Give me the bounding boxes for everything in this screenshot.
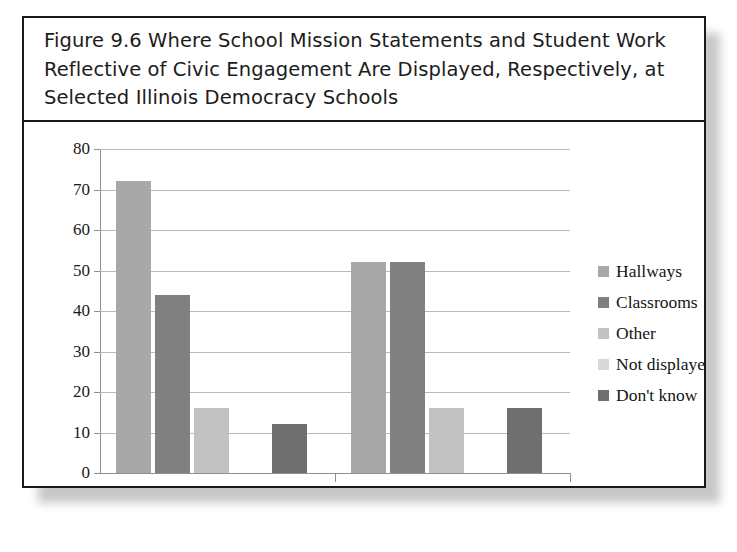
legend-swatch-icon (598, 266, 609, 277)
legend-label: Classrooms (616, 292, 698, 313)
y-axis-tick-label: 60 (44, 220, 90, 240)
legend-item[interactable]: Not displayed (598, 349, 704, 380)
y-axis-tick-label: 80 (44, 139, 90, 159)
legend-swatch-icon (598, 328, 609, 339)
chart-canvas: 01020304050607080 Mission statementStude… (24, 122, 704, 488)
y-axis-labels: 01020304050607080 (38, 149, 90, 473)
figure-root: Figure 9.6 Where School Mission Statemen… (0, 0, 737, 552)
figure-frame: Figure 9.6 Where School Mission Statemen… (22, 16, 706, 488)
bar (390, 262, 425, 473)
bar (194, 408, 229, 473)
legend-label: Don't know (616, 385, 697, 406)
bar-group (351, 149, 546, 473)
chart-legend: HallwaysClassroomsOtherNot displayedDon'… (598, 256, 704, 411)
legend-swatch-icon (598, 390, 609, 401)
legend-label: Hallways (616, 261, 682, 282)
y-axis-tick-label: 30 (44, 342, 90, 362)
y-axis-tick-label: 50 (44, 261, 90, 281)
bar (429, 408, 464, 473)
y-axis-tick-label: 0 (44, 463, 90, 483)
bar (155, 295, 190, 473)
bars-layer (100, 149, 570, 473)
legend-item[interactable]: Other (598, 318, 704, 349)
x-axis-separator (335, 473, 336, 482)
y-axis-tick-label: 20 (44, 382, 90, 402)
legend-swatch-icon (598, 359, 609, 370)
figure-title: Figure 9.6 Where School Mission Statemen… (44, 27, 686, 113)
y-axis-tick-label: 40 (44, 301, 90, 321)
bar-group (116, 149, 311, 473)
legend-item[interactable]: Don't know (598, 380, 704, 411)
bar (116, 181, 151, 473)
legend-item[interactable]: Classrooms (598, 287, 704, 318)
y-axis-tick-label: 10 (44, 423, 90, 443)
legend-label: Not displayed (616, 354, 704, 375)
y-axis-tick-label: 70 (44, 180, 90, 200)
figure-caption-area: Figure 9.6 Where School Mission Statemen… (24, 18, 704, 122)
legend-label: Other (616, 323, 656, 344)
legend-swatch-icon (598, 297, 609, 308)
legend-item[interactable]: Hallways (598, 256, 704, 287)
bar (351, 262, 386, 473)
bar (507, 408, 542, 473)
x-axis-end-tick (570, 473, 571, 482)
bar (272, 424, 307, 473)
plot-area (100, 149, 570, 473)
